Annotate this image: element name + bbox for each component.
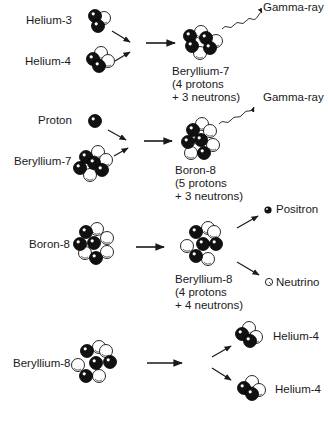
label-boron-8: Boron-8 bbox=[175, 164, 216, 177]
positron-particle bbox=[264, 206, 271, 213]
label-gamma-ray-2: Gamma-ray bbox=[263, 91, 324, 104]
arrow-neutrino-out bbox=[237, 262, 259, 275]
helium-4-product-nucleus-1 bbox=[236, 322, 263, 348]
label-beryllium-8: Beryllium-8 bbox=[175, 273, 233, 286]
label-helium-3: Helium-3 bbox=[26, 14, 72, 27]
helium-3-nucleus bbox=[89, 10, 111, 33]
beryllium-7-reactant-nucleus bbox=[74, 146, 113, 182]
arrow-he4-out-2 bbox=[212, 368, 231, 380]
neutrino-particle bbox=[265, 278, 272, 285]
beryllium-8-nucleus bbox=[181, 222, 223, 266]
label-beryllium-7-protons: (4 protons bbox=[172, 78, 224, 91]
arrow-proton-in bbox=[108, 130, 126, 140]
beryllium-8-reactant-nucleus bbox=[72, 341, 117, 383]
helium-4-product-nucleus-2 bbox=[238, 376, 266, 401]
label-helium-4-product-2: Helium-4 bbox=[275, 383, 321, 396]
label-beryllium-8-protons: (4 protons bbox=[175, 286, 227, 299]
gamma-ray-wave-1 bbox=[222, 12, 262, 29]
helium-4-nucleus bbox=[87, 47, 115, 73]
beryllium-7-nucleus bbox=[184, 26, 223, 60]
label-boron-8-neutrons: + 3 neutrons) bbox=[175, 190, 243, 203]
arrow-he3-in bbox=[112, 31, 130, 42]
label-beryllium-8-reactant: Beryllium-8 bbox=[13, 357, 71, 370]
label-helium-4: Helium-4 bbox=[25, 55, 71, 68]
label-beryllium-7: Beryllium-7 bbox=[172, 65, 230, 78]
label-neutrino: Neutrino bbox=[276, 276, 319, 289]
label-positron: Positron bbox=[276, 203, 318, 216]
label-beryllium-7-neutrons: + 3 neutrons) bbox=[172, 91, 240, 104]
label-beryllium-7-reactant: Beryllium-7 bbox=[14, 155, 72, 168]
arrow-he4-out-1 bbox=[212, 346, 231, 357]
label-helium-4-product-1: Helium-4 bbox=[273, 330, 319, 343]
label-boron-8-protons: (5 protons bbox=[175, 177, 227, 190]
label-proton: Proton bbox=[38, 114, 72, 127]
boron-8-reactant-nucleus bbox=[74, 223, 114, 265]
arrow-he4-in bbox=[115, 52, 130, 61]
label-boron-8-reactant: Boron-8 bbox=[29, 238, 70, 251]
proton-particle bbox=[89, 115, 102, 128]
label-beryllium-8-neutrons: + 4 neutrons) bbox=[175, 299, 243, 312]
arrow-be7-in bbox=[114, 148, 128, 156]
boron-8-nucleus bbox=[182, 118, 220, 160]
gamma-ray-wave-2 bbox=[219, 107, 254, 124]
arrow-positron-out bbox=[237, 216, 258, 228]
label-gamma-ray-1: Gamma-ray bbox=[263, 1, 324, 14]
